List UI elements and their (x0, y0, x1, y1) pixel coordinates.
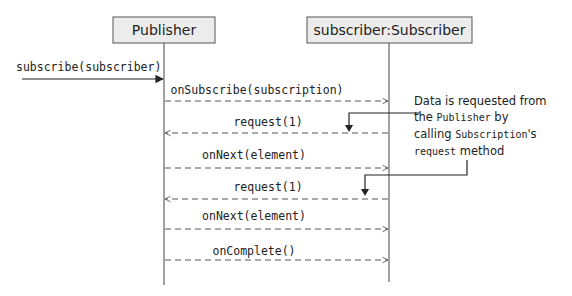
message-label: onNext(element) (202, 209, 306, 223)
message-oncomplete: onComplete() (165, 244, 388, 260)
note-connector-1 (345, 113, 420, 132)
note-line-3: calling Subscription's (414, 126, 572, 143)
note-code: request (414, 146, 456, 157)
note-text: method (456, 144, 504, 158)
participant-subscriber-label: subscriber:Subscriber (314, 22, 466, 38)
note-text: 's (527, 127, 536, 141)
note-code: Publisher (437, 112, 491, 123)
note-text: calling (414, 127, 455, 141)
message-label: subscribe(subscriber) (16, 60, 161, 74)
annotation-note: Data is requested from the Publisher by … (414, 93, 572, 160)
note-connector-2 (361, 160, 467, 196)
participant-publisher: Publisher (113, 17, 215, 43)
note-line-1: Data is requested from (414, 93, 572, 109)
message-onnext-1: onNext(element) (165, 148, 388, 168)
message-request-1: request(1) (165, 115, 388, 133)
note-text: the (414, 110, 437, 124)
message-request-2: request(1) (165, 180, 388, 199)
message-label: request(1) (233, 115, 302, 129)
note-line-2: the Publisher by (414, 109, 572, 126)
message-label: onSubscribe(subscription) (170, 83, 343, 97)
message-onsubscribe: onSubscribe(subscription) (165, 83, 388, 101)
message-onnext-2: onNext(element) (165, 209, 388, 229)
participant-subscriber: subscriber:Subscriber (307, 17, 472, 43)
message-label: request(1) (233, 180, 302, 194)
participant-publisher-label: Publisher (132, 22, 197, 38)
note-code: Subscription (455, 129, 527, 140)
note-text: by (491, 110, 509, 124)
message-label: onNext(element) (202, 148, 306, 162)
message-label: onComplete() (212, 244, 295, 258)
message-subscribe: subscribe(subscriber) (16, 60, 163, 79)
note-line-4: request method (414, 143, 572, 160)
